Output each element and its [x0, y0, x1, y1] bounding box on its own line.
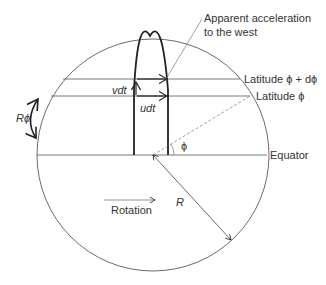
equator-label: Equator	[270, 149, 309, 161]
trajectory-path	[134, 31, 168, 155]
phi-label: ϕ	[181, 140, 187, 152]
radius-arrow	[153, 155, 231, 240]
earth-diagram	[0, 0, 326, 285]
rotation-label: Rotation	[111, 204, 152, 216]
vdt-label: vdt	[112, 84, 127, 96]
apparent-label-1: Apparent acceleration	[204, 12, 311, 24]
latitude-dphi-label: Latitude ϕ + dϕ	[244, 73, 317, 85]
rphi-arrow	[30, 99, 38, 138]
rphi-label: Rϕ	[16, 112, 30, 124]
radius-label: R	[176, 196, 184, 208]
udt-label: udt	[140, 102, 155, 114]
apparent-label-2: to the west	[204, 26, 257, 38]
phi-angle-arc	[171, 144, 174, 155]
pointer-line	[166, 19, 202, 79]
latitude-phi-label: Latitude ϕ	[256, 90, 304, 102]
